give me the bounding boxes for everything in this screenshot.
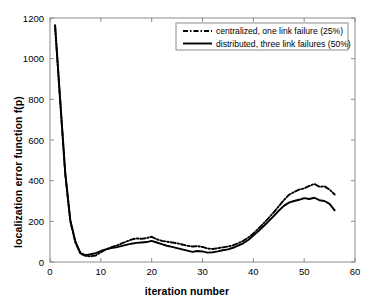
x-tick-label: 50 xyxy=(299,266,310,277)
y-tick-label: 1000 xyxy=(23,53,44,64)
x-tick-label: 10 xyxy=(96,266,107,277)
y-tick-label: 200 xyxy=(28,216,44,227)
x-axis-label: iteration number xyxy=(0,285,374,297)
y-tick-label: 1200 xyxy=(23,13,44,24)
line-chart: 0102030405060 020040060080010001200 cent… xyxy=(0,0,374,307)
x-tick-label: 30 xyxy=(197,266,208,277)
chart-legend: centralized, one link failure (25%)distr… xyxy=(176,23,351,50)
x-tick-label: 20 xyxy=(146,266,157,277)
y-tick-label: 400 xyxy=(28,175,44,186)
y-tick-label: 0 xyxy=(39,257,44,268)
x-tick-label: 0 xyxy=(47,266,52,277)
y-tick-label: 800 xyxy=(28,94,44,105)
legend-label-1: distributed, three link failures (50%) xyxy=(216,39,351,49)
plot-background xyxy=(50,18,355,262)
legend-label-0: centralized, one link failure (25%) xyxy=(216,26,343,36)
y-axis-label: localization error function f(p) xyxy=(12,96,24,248)
y-tick-label: 600 xyxy=(28,135,44,146)
x-tick-label: 40 xyxy=(248,266,259,277)
chart-figure: 0102030405060 020040060080010001200 cent… xyxy=(0,0,374,307)
x-tick-label: 60 xyxy=(350,266,361,277)
y-axis-tick-labels: 020040060080010001200 xyxy=(23,13,44,268)
x-axis-tick-labels: 0102030405060 xyxy=(47,266,360,277)
